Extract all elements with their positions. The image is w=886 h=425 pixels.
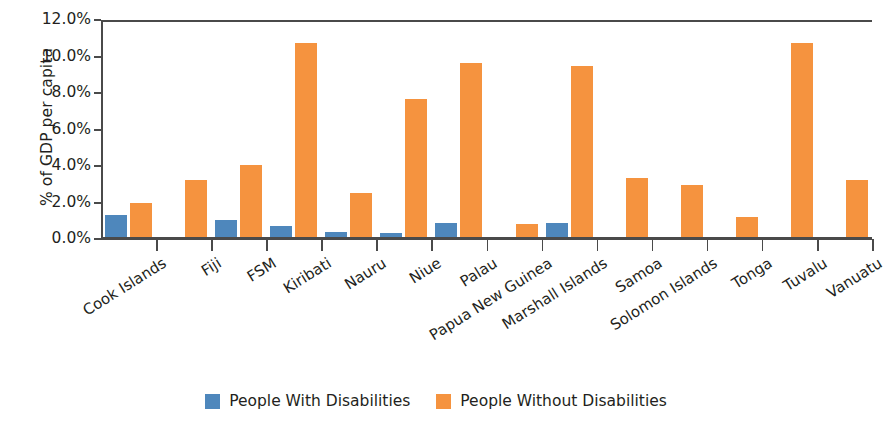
x-axis-tick [597, 239, 599, 251]
x-axis-tick [266, 239, 268, 251]
x-axis-tick [762, 239, 764, 251]
bar-without-disabilities [736, 217, 758, 239]
plot-border-top [101, 20, 872, 22]
y-axis-tick-label: 10.0% [1, 49, 91, 65]
x-axis-tick [707, 239, 709, 251]
legend-swatch-without [436, 394, 451, 409]
y-axis-tick-label: 2.0% [1, 195, 91, 211]
y-axis-tick-label: 6.0% [1, 122, 91, 138]
y-axis-tick [94, 19, 101, 21]
y-axis-tick [94, 202, 101, 204]
bar-without-disabilities [681, 185, 703, 239]
y-axis-tick [94, 56, 101, 58]
y-axis-tick-label: 0.0% [1, 231, 91, 247]
bar-without-disabilities [350, 193, 372, 239]
bar-without-disabilities [295, 43, 317, 239]
legend-swatch-with [205, 394, 220, 409]
x-axis-tick [321, 239, 323, 251]
bar-without-disabilities [571, 66, 593, 239]
y-axis-tick [94, 238, 101, 240]
y-axis-tick [94, 129, 101, 131]
y-axis-tick [94, 165, 101, 167]
y-axis-tick-label: 4.0% [1, 158, 91, 174]
x-axis-tick [156, 239, 158, 251]
chart-legend: People With DisabilitiesPeople Without D… [0, 392, 872, 410]
x-axis-tick [431, 239, 433, 251]
legend-item[interactable]: People With Disabilities [205, 392, 410, 410]
plot-border-left [101, 20, 103, 239]
x-axis-tick [652, 239, 654, 251]
x-axis-tick [872, 239, 874, 251]
bar-without-disabilities [130, 203, 152, 240]
bar-without-disabilities [240, 165, 262, 239]
legend-label: People With Disabilities [229, 392, 410, 410]
bar-without-disabilities [626, 178, 648, 239]
bar-without-disabilities [791, 43, 813, 239]
y-axis-tick-label: 8.0% [1, 85, 91, 101]
x-axis-tick [817, 239, 819, 251]
bar-without-disabilities [405, 99, 427, 239]
x-axis-tick [376, 239, 378, 251]
legend-label: People Without Disabilities [460, 392, 667, 410]
bar-without-disabilities [460, 63, 482, 239]
bar-without-disabilities [846, 180, 868, 239]
legend-item[interactable]: People Without Disabilities [436, 392, 667, 410]
y-axis-tick [94, 92, 101, 94]
bar-with-disabilities [105, 215, 127, 239]
x-axis-tick [487, 239, 489, 251]
plot-area [101, 20, 872, 239]
x-axis-tick [542, 239, 544, 251]
bar-without-disabilities [185, 180, 207, 239]
y-axis-tick-label: 12.0% [1, 12, 91, 28]
x-axis-tick [211, 239, 213, 251]
